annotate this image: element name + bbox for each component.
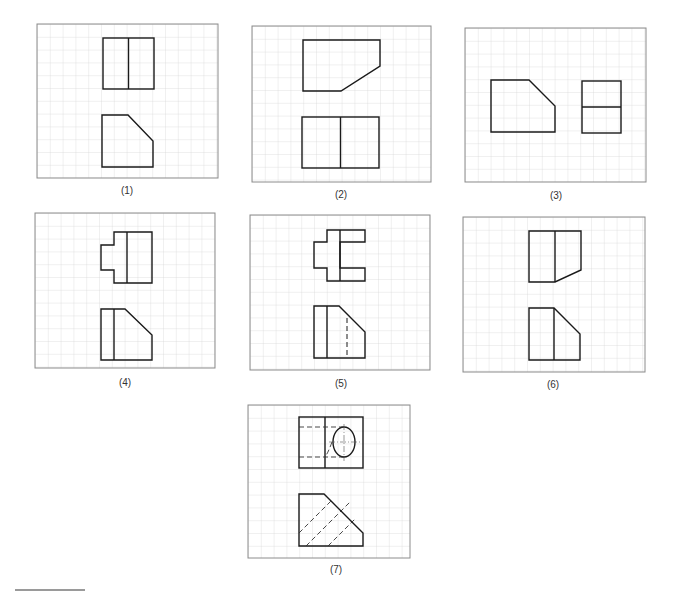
panel-3 <box>465 28 646 182</box>
panel-1-label: (1) <box>107 185 147 196</box>
grid-frame <box>37 24 218 178</box>
panel-5-drawing <box>250 215 430 370</box>
panel-1 <box>37 24 218 178</box>
panel-2-drawing <box>252 26 431 182</box>
panel-1-drawing <box>37 24 218 178</box>
panel-4-label: (4) <box>105 377 145 388</box>
panel-2-label: (2) <box>321 189 361 200</box>
grid-frame <box>248 405 410 558</box>
grid-frame <box>252 26 431 182</box>
grid-frame <box>35 213 215 368</box>
panel-5 <box>250 215 430 370</box>
panel-2 <box>252 26 431 182</box>
panel-7-drawing <box>248 405 410 558</box>
grid-frame <box>465 28 646 182</box>
panel-7 <box>248 405 410 558</box>
panel-7-label: (7) <box>316 564 356 575</box>
panel-5-label: (5) <box>321 378 361 389</box>
panel-4-drawing <box>35 213 215 368</box>
panel-6-label: (6) <box>533 379 573 390</box>
panel-3-drawing <box>465 28 646 182</box>
panel-4 <box>35 213 215 368</box>
panel-6 <box>463 217 645 372</box>
panel-3-label: (3) <box>536 190 576 201</box>
panel-6-drawing <box>463 217 645 372</box>
footer-rule <box>15 589 85 591</box>
